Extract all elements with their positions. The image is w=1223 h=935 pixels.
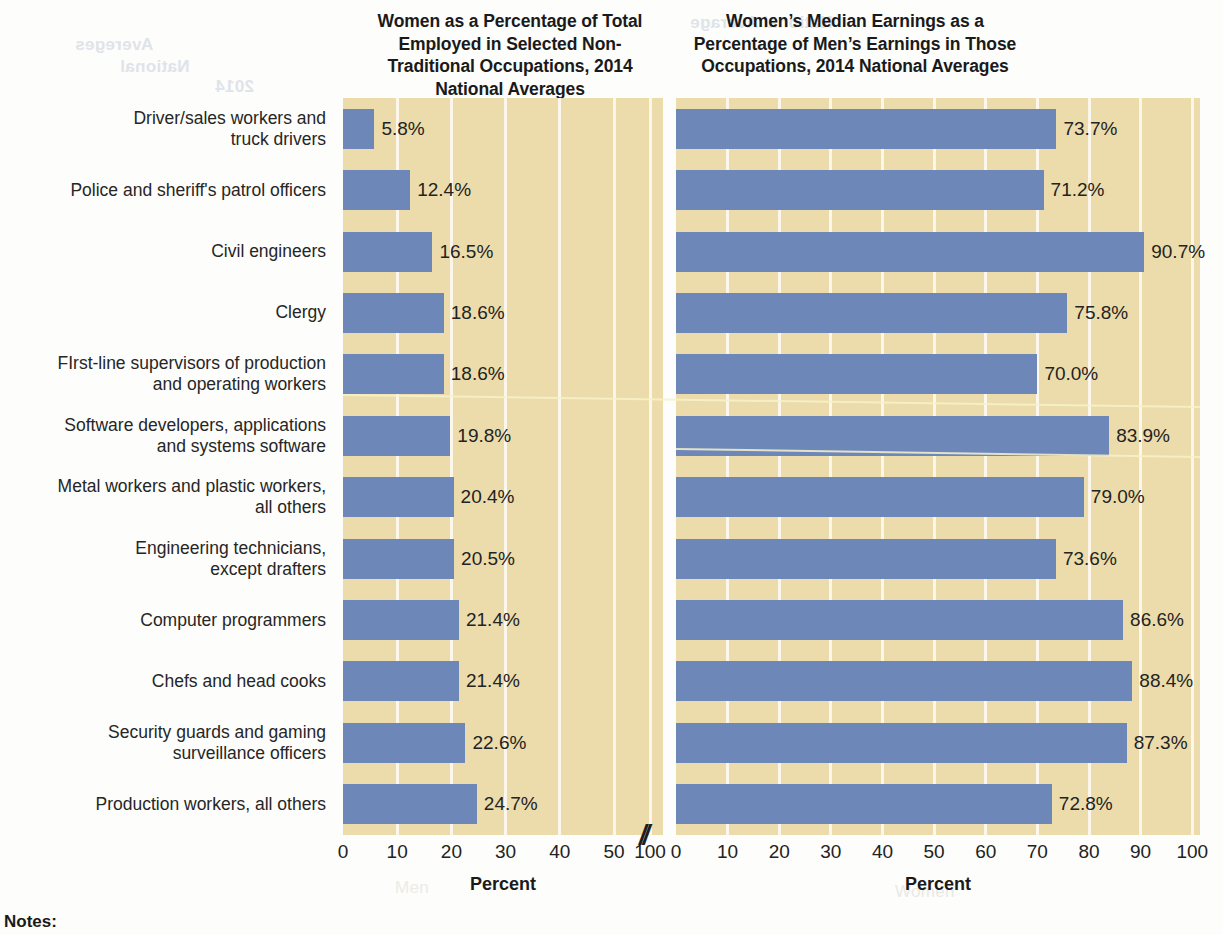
bar-value-label: 71.2% [1044,179,1105,201]
bar[interactable] [343,477,454,517]
bar[interactable] [676,170,1044,210]
bar[interactable] [343,354,444,394]
axis-tick-label: 20 [441,841,462,863]
bar-row[interactable]: 16.5% [343,232,663,272]
bar-row[interactable]: 79.0% [676,477,1200,517]
category-label: Civil engineers [0,241,326,262]
bar-value-label: 19.8% [450,424,511,446]
bar-row[interactable]: 22.6% [343,723,663,763]
axis-tick-label: 0 [671,841,682,863]
bar[interactable] [676,661,1132,701]
category-axis-labels: Driver/sales workers andtruck driversPol… [0,98,334,835]
bar-row[interactable]: 5.8% [343,109,663,149]
category-label: Software developers, applicationsand sys… [0,415,326,457]
x-axis-right: 0102030405060708090100 [676,841,1200,875]
bar-row[interactable]: 20.4% [343,477,663,517]
bar[interactable] [676,109,1056,149]
category-label: Driver/sales workers andtruck drivers [0,108,326,150]
category-label: Police and sheriff's patrol officers [0,180,326,201]
axis-tick-label: 10 [387,841,408,863]
bar-value-label: 88.4% [1132,670,1193,692]
bar-value-label: 20.5% [454,547,515,569]
category-label-line: Security guards and gaming [0,722,326,743]
bar-row[interactable]: 83.9% [676,416,1200,456]
bar[interactable] [343,539,454,579]
bar[interactable] [676,539,1056,579]
bar-value-label: 70.0% [1037,363,1098,385]
category-label-line: Driver/sales workers and [0,108,326,129]
bar-row[interactable]: 88.4% [676,661,1200,701]
bar-value-label: 83.9% [1109,424,1170,446]
bar[interactable] [343,784,477,824]
bar[interactable] [676,477,1084,517]
bar-value-label: 75.8% [1067,302,1128,324]
bar[interactable] [676,416,1109,456]
axis-tick-label: 10 [717,841,738,863]
axis-tick-label: 50 [924,841,945,863]
bar-value-label: 90.7% [1144,240,1205,262]
bar-row[interactable]: 90.7% [676,232,1200,272]
bar[interactable] [676,600,1123,640]
chart-titles: Women as a Percentage of Total Employed … [0,0,1223,92]
category-label-line: Metal workers and plastic workers, [0,476,326,497]
category-label: Engineering technicians,except drafters [0,538,326,580]
category-label: Security guards and gamingsurveillance o… [0,722,326,764]
chart-title-left: Women as a Percentage of Total Employed … [355,10,665,100]
category-label-line: Engineering technicians, [0,538,326,559]
category-label-line: Civil engineers [0,241,326,262]
bar-row[interactable]: 24.7% [343,784,663,824]
bar[interactable] [676,293,1067,333]
bar-value-label: 72.8% [1052,793,1113,815]
bar-value-label: 16.5% [432,240,493,262]
bar-value-label: 24.7% [477,793,538,815]
bar[interactable] [343,416,450,456]
bar[interactable] [343,600,459,640]
bar-row[interactable]: 75.8% [676,293,1200,333]
category-label: Chefs and head cooks [0,671,326,692]
category-label-line: Chefs and head cooks [0,671,326,692]
bar[interactable] [343,232,432,272]
bar-row[interactable]: 73.6% [676,539,1200,579]
bar-row[interactable]: 87.3% [676,723,1200,763]
bar-row[interactable]: 70.0% [676,354,1200,394]
bar[interactable] [676,723,1127,763]
bar-row[interactable]: 71.2% [676,170,1200,210]
bar[interactable] [343,293,444,333]
bar-row[interactable]: 20.5% [343,539,663,579]
axis-tick-label: 40 [549,841,570,863]
bar-value-label: 73.7% [1056,117,1117,139]
bar[interactable] [676,232,1144,272]
bar[interactable] [343,109,374,149]
bar[interactable] [343,170,410,210]
bar-value-label: 12.4% [410,179,471,201]
category-label: Clergy [0,302,326,323]
bar-row[interactable]: 18.6% [343,293,663,333]
axis-tick-label: 20 [769,841,790,863]
category-label-line: Software developers, applications [0,415,326,436]
bar[interactable] [343,723,465,763]
bar-value-label: 18.6% [444,363,505,385]
axis-tick-label: 90 [1130,841,1151,863]
bar-row[interactable]: 72.8% [676,784,1200,824]
bar-row[interactable]: 12.4% [343,170,663,210]
bar-row[interactable]: 21.4% [343,600,663,640]
bar-row[interactable]: 19.8% [343,416,663,456]
bar[interactable] [343,661,459,701]
bar[interactable] [676,354,1037,394]
category-label-line: except drafters [0,559,326,580]
axis-tick-label: 30 [495,841,516,863]
bar[interactable] [676,784,1052,824]
category-label-line: and systems software [0,436,326,457]
bar-row[interactable]: 86.6% [676,600,1200,640]
category-label-line: Police and sheriff's patrol officers [0,180,326,201]
bar-value-label: 21.4% [459,609,520,631]
bar-row[interactable]: 73.7% [676,109,1200,149]
bar-value-label: 21.4% [459,670,520,692]
bar-value-label: 86.6% [1123,609,1184,631]
chart-title-right: Women’s Median Earnings as a Percentage … [690,10,1020,78]
bar-row[interactable]: 21.4% [343,661,663,701]
category-label-line: Clergy [0,302,326,323]
bar-row[interactable]: 18.6% [343,354,663,394]
x-axis-title-right: Percent [676,874,1200,895]
axis-tick-label: 40 [872,841,893,863]
